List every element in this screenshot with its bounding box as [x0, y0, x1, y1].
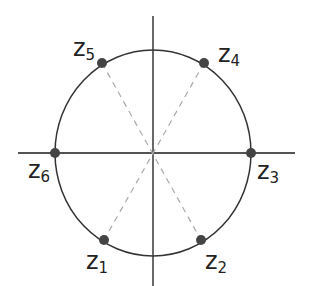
label-z1: z1 [86, 247, 108, 277]
label-z5: z5 [73, 34, 95, 64]
unit-circle-diagram: z1 z2 z3 z4 z5 z6 [0, 0, 313, 286]
label-z3: z3 [257, 157, 279, 187]
point-z2 [196, 235, 206, 245]
label-z6: z6 [28, 156, 50, 186]
point-z3 [246, 148, 256, 158]
point-z4 [199, 58, 209, 68]
label-z2: z2 [205, 247, 227, 277]
diagonal-z4-z1 [104, 63, 204, 240]
label-z4: z4 [218, 40, 240, 70]
point-z5 [97, 58, 107, 68]
point-z1 [99, 235, 109, 245]
point-z6 [50, 148, 60, 158]
diagonal-z5-z2 [102, 63, 201, 240]
